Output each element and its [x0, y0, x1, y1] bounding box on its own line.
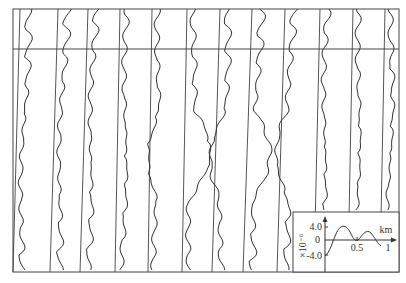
y-tick-label-4: 4.0: [310, 221, 323, 232]
x-tick-label-0-5: 0.5: [351, 242, 364, 253]
profile-trace: [321, 9, 331, 210]
profile-trace: [209, 9, 232, 270]
profile-trace: [355, 9, 361, 210]
profile-trace: [87, 9, 100, 270]
profile-diagram: 4.0 0 -4.0 ×10⁻⁶ 0.5 1 km: [0, 0, 406, 283]
profile-trace: [249, 9, 272, 270]
y-scale-label: ×10⁻⁶: [297, 233, 308, 258]
profile-trace: [18, 9, 32, 270]
y-tick-label-neg4: -4.0: [306, 250, 322, 261]
trace-baseline: [115, 9, 120, 272]
scale-inset: 4.0 0 -4.0 ×10⁻⁶ 0.5 1 km: [293, 212, 399, 272]
profile-trace: [148, 9, 161, 270]
trace-baseline: [381, 9, 385, 212]
profile-trace: [386, 9, 395, 210]
trace-baseline: [243, 9, 252, 272]
y-tick-label-0: 0: [315, 234, 320, 245]
trace-baseline: [277, 9, 285, 272]
trace-baseline: [50, 9, 58, 272]
profile-trace: [186, 9, 211, 270]
trace-baseline: [80, 9, 88, 272]
trace-baseline: [315, 9, 320, 212]
profile-trace: [120, 9, 130, 270]
x-tick-label-1: 1: [386, 242, 391, 253]
profile-trace: [57, 9, 72, 270]
trace-baseline: [349, 9, 353, 212]
trace-baseline: [13, 9, 20, 272]
x-unit-label: km: [380, 224, 393, 235]
